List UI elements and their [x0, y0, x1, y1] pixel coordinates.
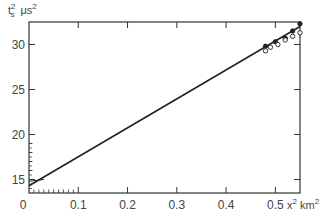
chart: 0.10.20.30.40.5015202530 t2sμs2 x2km2 — [0, 0, 321, 215]
y-tick-label: 25 — [12, 83, 26, 97]
data-series — [29, 22, 302, 186]
y-tick-label: 15 — [12, 173, 26, 187]
x-tick-label: 0.4 — [218, 198, 235, 212]
open-data-point — [268, 45, 272, 49]
tick-labels: 0.10.20.30.40.5015202530 — [12, 38, 284, 213]
fit-line — [29, 27, 300, 186]
x-tick-label: 0.1 — [70, 198, 87, 212]
x-axis-label: x2km2 — [287, 197, 320, 211]
x-tick-label: 0.3 — [168, 198, 185, 212]
filled-data-point — [263, 44, 267, 48]
y-axis-label: t2sμs2 — [8, 2, 37, 19]
origin-label: 0 — [20, 198, 27, 212]
open-data-point — [298, 31, 302, 35]
x-tick-label: 0.5 — [267, 198, 284, 212]
axis-ticks — [29, 22, 300, 193]
open-data-point — [263, 49, 267, 53]
open-data-point — [290, 34, 294, 38]
plot-frame — [29, 22, 300, 193]
x-tick-label: 0.2 — [119, 198, 136, 212]
filled-data-point — [298, 22, 302, 26]
open-data-point — [276, 42, 280, 46]
plot-border — [29, 22, 300, 193]
y-tick-label: 20 — [12, 128, 26, 142]
open-data-point — [283, 38, 287, 42]
filled-data-point — [290, 29, 294, 33]
y-tick-label: 30 — [12, 38, 26, 52]
